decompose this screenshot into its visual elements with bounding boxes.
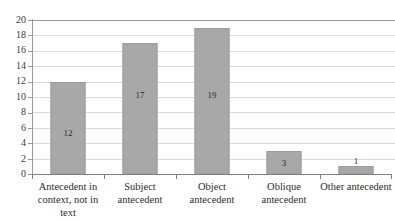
y-tick-label: 12 — [2, 76, 26, 86]
x-tick-mark — [248, 175, 249, 179]
bar[interactable] — [195, 28, 230, 174]
y-tick-label: 2 — [2, 154, 26, 164]
x-axis-category-labels: Antecedent in context, not in text Subje… — [32, 180, 392, 221]
y-tick-label: 16 — [2, 45, 26, 55]
bar-slot: 12 — [32, 20, 104, 174]
y-tick-label: 18 — [2, 30, 26, 40]
bars-layer: 12 17 19 3 1 — [32, 20, 392, 174]
bar-slot: 19 — [176, 20, 248, 174]
bar-value-label: 1 — [354, 157, 359, 166]
bar-value-label: 17 — [136, 91, 145, 100]
x-tick-mark — [320, 175, 321, 179]
y-tick-label: 14 — [2, 61, 26, 71]
y-tick-label: 10 — [2, 92, 26, 102]
bar-value-label: 19 — [208, 91, 217, 100]
category-label: Subject antecedent — [104, 180, 176, 206]
bar-value-label: 3 — [282, 159, 287, 168]
bar-value-label: 12 — [64, 129, 73, 138]
bar-slot: 1 — [320, 20, 392, 174]
y-tick-label: 4 — [2, 138, 26, 148]
y-tick-label: 0 — [2, 169, 26, 179]
bar-slot: 3 — [248, 20, 320, 174]
bar[interactable] — [339, 166, 374, 174]
x-tick-mark — [176, 175, 177, 179]
y-axis-tick-labels: 20 18 16 14 12 10 8 6 4 2 0 — [0, 0, 26, 221]
y-tick-label: 6 — [2, 123, 26, 133]
category-label: Other antecedent — [320, 180, 392, 193]
x-tick-mark — [32, 175, 33, 179]
bar-chart: 20 18 16 14 12 10 8 6 4 2 0 — [0, 0, 395, 221]
category-label: Oblique antecedent — [248, 180, 320, 206]
x-axis-line — [32, 174, 392, 175]
x-tick-mark — [104, 175, 105, 179]
bar-slot: 17 — [104, 20, 176, 174]
y-tick-label: 20 — [2, 15, 26, 25]
y-tick-label: 8 — [2, 107, 26, 117]
x-tick-mark — [391, 175, 392, 179]
category-label: Antecedent in context, not in text — [32, 180, 104, 219]
category-label: Object antecedent — [176, 180, 248, 206]
bar[interactable] — [123, 43, 158, 174]
